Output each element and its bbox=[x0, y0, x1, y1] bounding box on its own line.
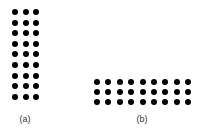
dot bbox=[23, 94, 29, 100]
dot bbox=[140, 79, 146, 85]
dot bbox=[117, 79, 123, 85]
dot bbox=[33, 30, 39, 36]
dot bbox=[33, 20, 39, 26]
dot bbox=[151, 89, 157, 95]
caption-a: (a) bbox=[20, 114, 31, 124]
dot bbox=[12, 94, 18, 100]
dot bbox=[94, 99, 100, 105]
dot bbox=[23, 20, 29, 26]
dot bbox=[23, 41, 29, 47]
dot bbox=[23, 51, 29, 57]
dot-array-b bbox=[94, 79, 191, 105]
dot bbox=[151, 99, 157, 105]
dot bbox=[23, 30, 29, 36]
dot bbox=[140, 99, 146, 105]
dot bbox=[23, 83, 29, 89]
dot bbox=[12, 73, 18, 79]
dot bbox=[12, 20, 18, 26]
dot bbox=[128, 79, 134, 85]
dot bbox=[33, 51, 39, 57]
dot bbox=[23, 62, 29, 68]
dot bbox=[12, 83, 18, 89]
dot bbox=[12, 30, 18, 36]
dot bbox=[94, 89, 100, 95]
dot bbox=[185, 89, 191, 95]
dot bbox=[162, 79, 168, 85]
dot bbox=[33, 83, 39, 89]
dot bbox=[174, 99, 180, 105]
dot bbox=[94, 79, 100, 85]
dot bbox=[12, 9, 18, 15]
dot-array-a bbox=[12, 9, 39, 100]
dot bbox=[105, 89, 111, 95]
dot bbox=[12, 41, 18, 47]
dot bbox=[33, 9, 39, 15]
dot bbox=[33, 62, 39, 68]
caption-b: (b) bbox=[137, 114, 148, 124]
dot bbox=[185, 99, 191, 105]
dot bbox=[162, 89, 168, 95]
dot bbox=[105, 79, 111, 85]
dot bbox=[140, 89, 146, 95]
dot bbox=[12, 62, 18, 68]
dot bbox=[12, 51, 18, 57]
dot bbox=[128, 89, 134, 95]
dot bbox=[128, 99, 134, 105]
dot bbox=[117, 99, 123, 105]
dot bbox=[33, 41, 39, 47]
dot bbox=[162, 99, 168, 105]
dot bbox=[23, 9, 29, 15]
dot bbox=[185, 79, 191, 85]
dot bbox=[174, 79, 180, 85]
dot bbox=[105, 99, 111, 105]
dot bbox=[174, 89, 180, 95]
dot bbox=[151, 79, 157, 85]
dot bbox=[23, 73, 29, 79]
dot bbox=[33, 94, 39, 100]
dot bbox=[33, 73, 39, 79]
dot bbox=[117, 89, 123, 95]
